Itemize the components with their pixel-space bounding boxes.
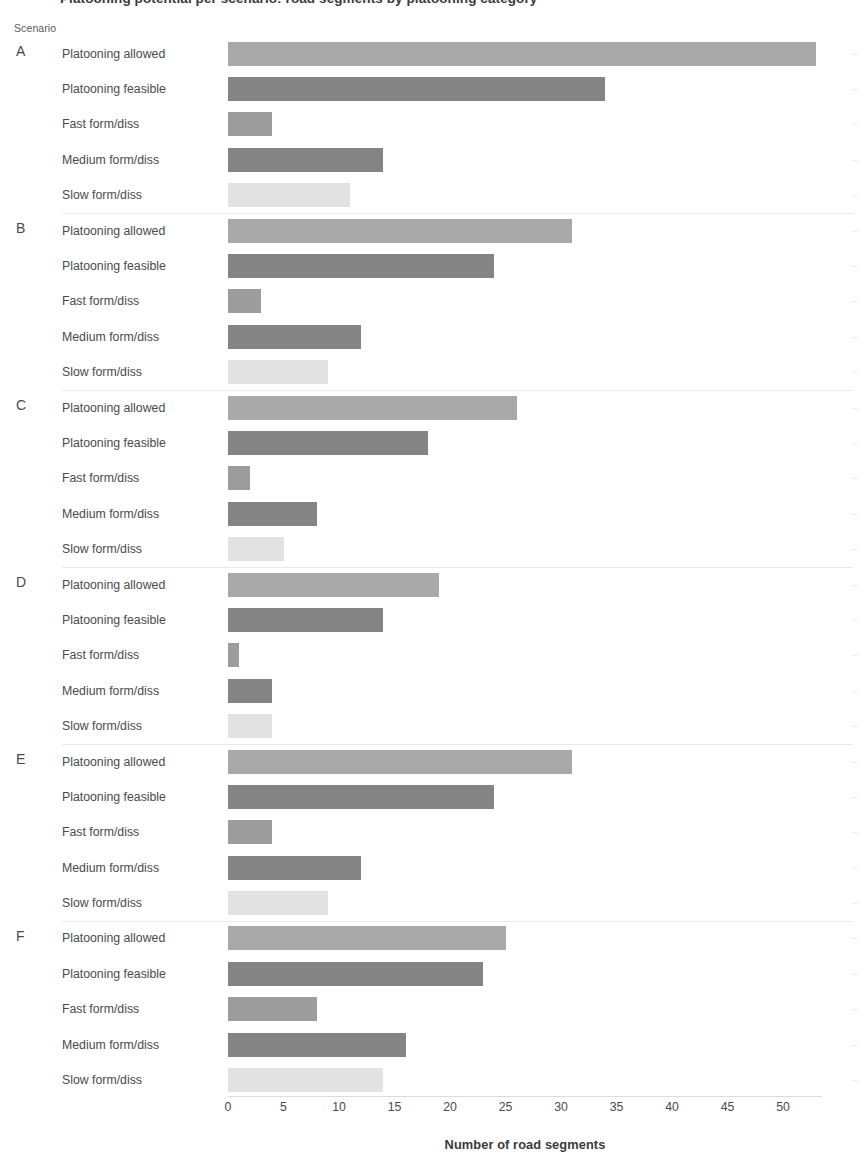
bar[interactable] <box>228 219 572 243</box>
bar-track <box>228 319 859 354</box>
bar[interactable] <box>228 785 494 809</box>
bar-track <box>228 390 859 425</box>
bar[interactable] <box>228 325 361 349</box>
chart-row[interactable]: Platooning allowed <box>0 567 859 602</box>
edge-tick <box>852 54 857 55</box>
bar[interactable] <box>228 502 317 526</box>
chart-row[interactable]: Platooning allowed <box>0 921 859 956</box>
row-label: Fast form/diss <box>62 825 220 839</box>
chart-row[interactable]: Medium form/diss <box>0 319 859 354</box>
chart-row[interactable]: Medium form/diss <box>0 673 859 708</box>
edge-tick <box>852 832 857 833</box>
chart-row[interactable]: Fast form/diss <box>0 461 859 496</box>
bar[interactable] <box>228 608 383 632</box>
bar[interactable] <box>228 714 272 738</box>
chart-row[interactable]: Slow form/diss <box>0 708 859 743</box>
chart-row[interactable]: Slow form/diss <box>0 885 859 920</box>
edge-tick <box>852 478 857 479</box>
chart-row[interactable]: Medium form/diss <box>0 850 859 885</box>
chart-row[interactable]: Slow form/diss <box>0 1062 859 1097</box>
row-label: Platooning feasible <box>62 967 220 981</box>
row-label: Fast form/diss <box>62 471 220 485</box>
chart-row[interactable]: Platooning feasible <box>0 956 859 991</box>
edge-tick <box>852 160 857 161</box>
x-axis-title: Number of road segments <box>228 1137 822 1152</box>
bar[interactable] <box>228 77 605 101</box>
bar[interactable] <box>228 891 328 915</box>
row-label: Slow form/diss <box>62 1073 220 1087</box>
chart-row[interactable]: Slow form/diss <box>0 355 859 390</box>
chart-row[interactable]: Platooning feasible <box>0 425 859 460</box>
bar[interactable] <box>228 42 816 66</box>
edge-tick <box>852 585 857 586</box>
bar-track <box>228 1062 859 1097</box>
bar[interactable] <box>228 962 483 986</box>
row-label: Platooning feasible <box>62 613 220 627</box>
bar[interactable] <box>228 679 272 703</box>
bar[interactable] <box>228 820 272 844</box>
edge-tick <box>852 266 857 267</box>
bar[interactable] <box>228 112 272 136</box>
x-tick-label: 15 <box>388 1100 402 1114</box>
bar[interactable] <box>228 1068 383 1092</box>
edge-tick <box>852 691 857 692</box>
bar[interactable] <box>228 396 517 420</box>
bar[interactable] <box>228 431 428 455</box>
bar[interactable] <box>228 537 284 561</box>
row-label: Slow form/diss <box>62 365 220 379</box>
chart-row[interactable]: Slow form/diss <box>0 178 859 213</box>
bar-track <box>228 638 859 673</box>
bar-track <box>228 815 859 850</box>
bar[interactable] <box>228 148 383 172</box>
chart-row[interactable]: Fast form/diss <box>0 815 859 850</box>
chart-row[interactable]: Platooning allowed <box>0 390 859 425</box>
edge-tick <box>852 620 857 621</box>
bar[interactable] <box>228 183 350 207</box>
bar[interactable] <box>228 573 439 597</box>
bar-track <box>228 107 859 142</box>
plot-area: APlatooning allowedPlatooning feasibleFa… <box>0 36 859 1096</box>
x-tick-label: 25 <box>499 1100 513 1114</box>
edge-tick <box>852 1009 857 1010</box>
bar[interactable] <box>228 360 328 384</box>
chart-row[interactable]: Fast form/diss <box>0 638 859 673</box>
bar-track <box>228 496 859 531</box>
bar-track <box>228 248 859 283</box>
chart-row[interactable]: Fast form/diss <box>0 284 859 319</box>
chart-row[interactable]: Platooning feasible <box>0 71 859 106</box>
bar[interactable] <box>228 643 239 667</box>
bar[interactable] <box>228 1033 406 1057</box>
bar[interactable] <box>228 856 361 880</box>
x-tick-label: 5 <box>280 1100 287 1114</box>
chart-row[interactable]: Medium form/diss <box>0 496 859 531</box>
bar[interactable] <box>228 466 250 490</box>
edge-tick <box>852 974 857 975</box>
bar-track <box>228 284 859 319</box>
bar-track <box>228 850 859 885</box>
bar-track <box>228 673 859 708</box>
bar[interactable] <box>228 926 506 950</box>
chart-row[interactable]: Platooning feasible <box>0 779 859 814</box>
edge-tick <box>852 903 857 904</box>
chart-row[interactable]: Medium form/diss <box>0 1027 859 1062</box>
chart-row[interactable]: Platooning allowed <box>0 213 859 248</box>
bar[interactable] <box>228 997 317 1021</box>
chart-row[interactable]: Fast form/diss <box>0 992 859 1027</box>
x-tick-label: 35 <box>610 1100 624 1114</box>
chart-row[interactable]: Slow form/diss <box>0 531 859 566</box>
chart-row[interactable]: Fast form/diss <box>0 107 859 142</box>
chart-row[interactable]: Platooning allowed <box>0 36 859 71</box>
chart-row[interactable]: Platooning feasible <box>0 602 859 637</box>
chart-row[interactable]: Platooning allowed <box>0 744 859 779</box>
row-label: Fast form/diss <box>62 648 220 662</box>
bar[interactable] <box>228 750 572 774</box>
bar-track <box>228 602 859 637</box>
chart-row[interactable]: Platooning feasible <box>0 248 859 283</box>
row-label: Slow form/diss <box>62 896 220 910</box>
chart-row[interactable]: Medium form/diss <box>0 142 859 177</box>
bar[interactable] <box>228 289 261 313</box>
bar[interactable] <box>228 254 494 278</box>
row-label: Slow form/diss <box>62 188 220 202</box>
edge-tick <box>852 301 857 302</box>
row-label: Fast form/diss <box>62 1002 220 1016</box>
